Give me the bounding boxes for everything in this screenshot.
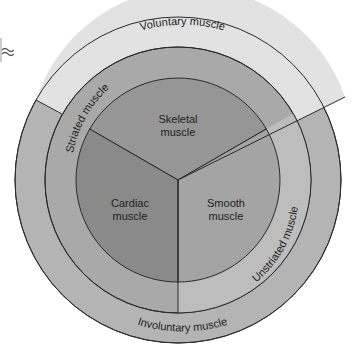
smooth-label-line1: Smooth	[207, 197, 245, 209]
skeletal-label-line1: Skeletal	[158, 113, 197, 125]
muscle-classification-diagram: Voluntary muscle Involuntary muscle Stri…	[0, 0, 355, 352]
skeletal-label-line2: muscle	[161, 126, 196, 138]
cardiac-label-line1: Cardiac	[111, 197, 149, 209]
smooth-label-line2: muscle	[209, 210, 244, 222]
cardiac-label-line2: muscle	[113, 210, 148, 222]
